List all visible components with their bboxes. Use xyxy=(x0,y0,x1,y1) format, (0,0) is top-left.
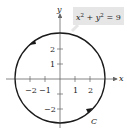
equation-label-box: x2 + y2 = 9 xyxy=(72,7,124,31)
x-axis-label: x xyxy=(119,74,124,83)
y-axis-label: y xyxy=(56,5,62,14)
diagram-canvas: x2 + y2 = 9 x y −2 −1 1 2 2 1 −2 xyxy=(0,0,127,131)
x-tick-label: −1 xyxy=(39,86,51,95)
y-tick-label: 1 xyxy=(50,60,55,69)
circle-diagram: x2 + y2 = 9 x y −2 −1 1 2 2 1 −2 xyxy=(0,0,127,131)
y-tick-label: 2 xyxy=(50,45,55,54)
curve-label: C xyxy=(91,117,97,126)
x-tick-label: 1 xyxy=(73,86,78,95)
x-tick-label: −2 xyxy=(25,86,37,95)
y-tick-label: −2 xyxy=(44,105,56,114)
direction-arrow-icon xyxy=(29,40,36,45)
x-tick-label: 2 xyxy=(88,86,93,95)
